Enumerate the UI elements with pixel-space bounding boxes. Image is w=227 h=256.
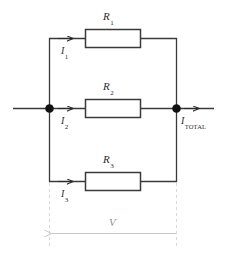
resistor-r1-body [86, 30, 141, 48]
current-itotal-subscript: TOTAL [185, 123, 206, 130]
junction-node-left [45, 104, 54, 113]
resistor-r2-subscript: 2 [110, 89, 114, 97]
branch-bottom [50, 173, 177, 191]
resistor-r1-label: R1 [103, 11, 113, 25]
resistor-r3-subscript: 3 [110, 162, 114, 170]
junction-node-right [172, 104, 181, 113]
current-i2-label: I2 [61, 116, 68, 129]
resistor-r2-body [86, 100, 141, 118]
current-i2-subscript: 2 [65, 123, 69, 131]
branch-top [50, 30, 177, 48]
current-i1-subscript: 1 [65, 53, 69, 61]
circuit-diagram: R1 R2 R3 I1 I2 I3 ITOTAL V [0, 0, 227, 256]
current-i1-label: I1 [61, 46, 68, 59]
resistor-r3-label: R3 [103, 154, 113, 168]
resistor-r2-label: R2 [103, 81, 113, 95]
current-itotal-label: ITOTAL [181, 116, 206, 129]
current-i3-subscript: 3 [65, 196, 69, 204]
resistor-r1-subscript: 1 [110, 19, 114, 27]
voltage-label: V [109, 217, 116, 228]
current-i3-label: I3 [61, 189, 68, 202]
resistor-r3-body [86, 173, 141, 191]
